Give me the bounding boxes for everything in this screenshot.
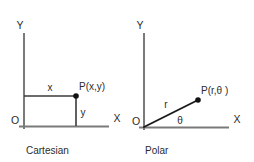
polar-radius-label: r: [164, 99, 168, 110]
cartesian-y-segment-label: y: [81, 107, 86, 118]
polar-x-axis-label: X: [233, 113, 240, 125]
polar-radius-line: [144, 100, 198, 127]
coordinate-systems-figure: Y X O x y P(x,y) Cartesian Y X O r θ P(r…: [0, 0, 254, 162]
cartesian-point-marker: [73, 93, 79, 99]
cartesian-y-axis-label: Y: [16, 19, 23, 31]
polar-caption: Polar: [145, 145, 169, 156]
polar-panel: Y X O r θ P(r,θ ) Polar: [132, 19, 241, 156]
cartesian-x-segment-label: x: [48, 82, 53, 93]
polar-point-label: P(r,θ ): [201, 85, 228, 96]
cartesian-origin-label: O: [11, 114, 19, 126]
polar-point-marker: [195, 97, 201, 103]
cartesian-panel: Y X O x y P(x,y) Cartesian: [11, 19, 121, 156]
cartesian-x-axis-label: X: [113, 112, 120, 124]
cartesian-point-label: P(x,y): [79, 81, 105, 92]
diagram-canvas: Y X O x y P(x,y) Cartesian Y X O r θ P(r…: [0, 0, 254, 162]
polar-y-axis-label: Y: [136, 19, 143, 31]
polar-theta-label: θ: [177, 115, 183, 126]
cartesian-caption: Cartesian: [26, 145, 69, 156]
polar-origin-label: O: [132, 115, 140, 127]
